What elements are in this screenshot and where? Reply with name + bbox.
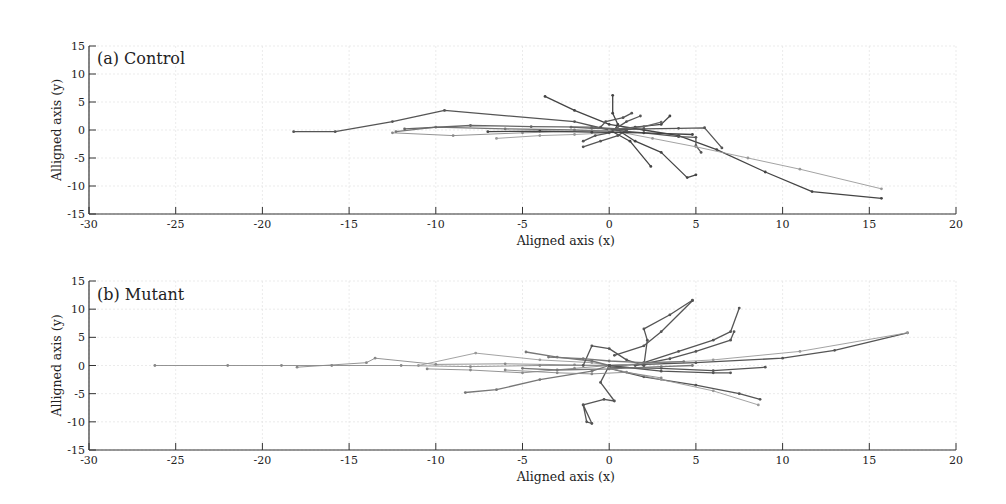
data-point bbox=[629, 140, 632, 143]
x-tick-label: -5 bbox=[517, 454, 528, 467]
axes: -30-25-20-15-10-505101520151050-5-10-15 bbox=[67, 40, 963, 231]
data-point bbox=[594, 134, 597, 137]
data-point bbox=[474, 352, 477, 355]
y-tick-label: -5 bbox=[74, 152, 85, 165]
data-point bbox=[434, 363, 437, 366]
data-point bbox=[153, 364, 156, 367]
data-point bbox=[642, 344, 645, 347]
data-point bbox=[608, 367, 611, 370]
data-point bbox=[521, 371, 524, 374]
trajectory-track-10 bbox=[644, 300, 693, 365]
data-point bbox=[721, 147, 724, 150]
x-tick-label: -10 bbox=[427, 454, 445, 467]
x-axis-title: Aligned axis (x) bbox=[516, 233, 615, 248]
data-point bbox=[365, 361, 368, 364]
data-point bbox=[426, 367, 429, 370]
data-point bbox=[374, 357, 377, 360]
data-point bbox=[764, 366, 767, 369]
data-point bbox=[660, 121, 663, 124]
y-tick-label: 10 bbox=[71, 68, 85, 81]
data-point bbox=[582, 145, 585, 148]
data-point bbox=[695, 384, 698, 387]
data-point bbox=[703, 126, 706, 129]
data-point bbox=[504, 127, 507, 130]
panel-title: (b) Mutant bbox=[97, 285, 185, 304]
data-point bbox=[391, 131, 394, 134]
data-point bbox=[570, 126, 573, 129]
data-point bbox=[660, 151, 663, 154]
data-point bbox=[538, 134, 541, 137]
data-point bbox=[525, 351, 528, 354]
data-point bbox=[599, 381, 602, 384]
data-point bbox=[573, 133, 576, 136]
data-point bbox=[700, 151, 703, 154]
data-point bbox=[733, 330, 736, 333]
data-point bbox=[695, 136, 698, 139]
data-point bbox=[616, 134, 619, 137]
y-tick-label: -10 bbox=[67, 416, 85, 429]
x-tick-label: 20 bbox=[949, 454, 963, 467]
x-axis-title: Aligned axis (x) bbox=[516, 469, 615, 484]
data-point bbox=[556, 371, 559, 374]
data-point bbox=[880, 197, 883, 200]
data-point bbox=[695, 173, 698, 176]
data-point bbox=[712, 358, 715, 361]
figure: -30-25-20-15-10-505101520151050-5-10-15A… bbox=[0, 0, 1006, 504]
data-point bbox=[521, 367, 524, 370]
data-point bbox=[660, 376, 663, 379]
data-point bbox=[538, 358, 541, 361]
data-point bbox=[603, 398, 606, 401]
data-point bbox=[495, 137, 498, 140]
data-point bbox=[625, 358, 628, 361]
y-tick-label: 10 bbox=[71, 303, 85, 316]
data-point bbox=[604, 120, 607, 123]
data-point bbox=[738, 392, 741, 395]
x-tick-label: -20 bbox=[254, 454, 272, 467]
data-point bbox=[582, 364, 585, 367]
data-point bbox=[611, 112, 614, 115]
data-point bbox=[660, 330, 663, 333]
data-point bbox=[906, 331, 909, 334]
x-tick-label: -25 bbox=[167, 454, 185, 467]
y-tick-label: 0 bbox=[78, 360, 85, 373]
data-point bbox=[764, 171, 767, 174]
data-point bbox=[544, 95, 547, 98]
data-point bbox=[781, 357, 784, 360]
data-point bbox=[590, 344, 593, 347]
data-point bbox=[682, 360, 685, 363]
data-point bbox=[538, 378, 541, 381]
data-point bbox=[608, 364, 611, 367]
data-point bbox=[590, 370, 593, 373]
data-point bbox=[417, 364, 420, 367]
y-tick-label: 5 bbox=[78, 331, 85, 344]
data-point bbox=[625, 371, 628, 374]
data-point bbox=[729, 339, 732, 342]
x-tick-label: 10 bbox=[776, 218, 790, 231]
x-tick-label: 15 bbox=[862, 218, 876, 231]
axes: -30-25-20-15-10-505101520151050-5-10-15 bbox=[67, 275, 963, 467]
x-tick-label: 10 bbox=[776, 454, 790, 467]
data-point bbox=[651, 137, 654, 140]
data-point bbox=[590, 422, 593, 425]
data-point bbox=[757, 404, 760, 407]
data-point bbox=[833, 349, 836, 352]
x-tick-label: -20 bbox=[254, 218, 272, 231]
trajectory-track-2 bbox=[545, 96, 881, 198]
data-point bbox=[660, 365, 663, 368]
data-point bbox=[660, 370, 663, 373]
data-point bbox=[504, 362, 507, 365]
data-point bbox=[403, 127, 406, 130]
data-point bbox=[452, 134, 455, 137]
data-point bbox=[712, 371, 715, 374]
y-tick-label: 15 bbox=[71, 40, 85, 53]
trajectory-track-21 bbox=[505, 370, 661, 378]
x-tick-label: -10 bbox=[427, 218, 445, 231]
x-tick-label: -15 bbox=[340, 218, 358, 231]
data-point bbox=[668, 357, 671, 360]
data-point bbox=[582, 404, 585, 407]
data-point bbox=[642, 131, 645, 134]
data-point bbox=[486, 130, 489, 133]
data-point bbox=[608, 347, 611, 350]
data-point bbox=[391, 120, 394, 123]
trajectory-series bbox=[292, 94, 883, 200]
